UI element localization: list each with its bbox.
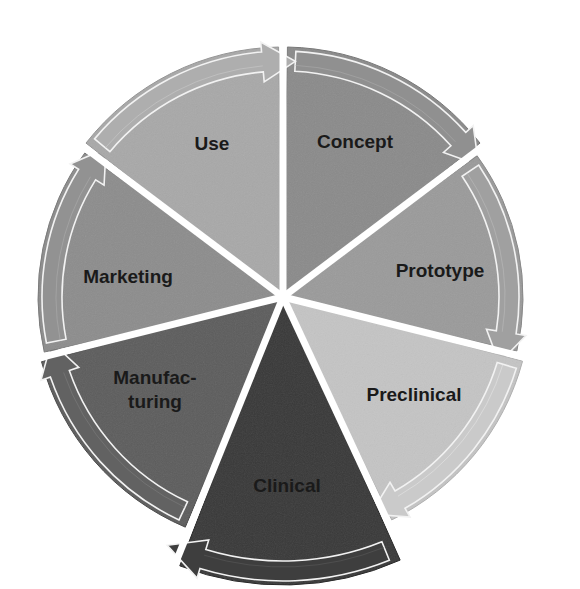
label-use: Use: [195, 133, 230, 154]
center-hub: [276, 290, 290, 304]
label-clinical: Clinical: [253, 475, 321, 496]
label-prototype: Prototype: [396, 260, 485, 281]
label-preclinical: Preclinical: [366, 384, 461, 405]
label-concept: Concept: [317, 131, 394, 152]
label-marketing: Marketing: [83, 266, 173, 287]
product-lifecycle-cycle-diagram: ConceptPrototypePreclinicalClinicalManuf…: [0, 0, 580, 589]
